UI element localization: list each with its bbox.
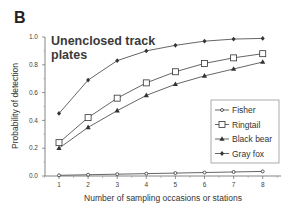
x-ticks: 12345678 (44, 176, 277, 188)
legend-marker (219, 122, 225, 128)
data-point-gray-fox (203, 39, 207, 44)
data-point-fisher (145, 172, 148, 175)
data-point-gray-fox (115, 58, 119, 63)
data-point-gray-fox (173, 43, 177, 48)
x-axis-label: Number of sampling occasions or stations (84, 193, 242, 203)
data-point-ringtail (143, 80, 149, 86)
chart: B 0.00.20.40.60.81.0 12345678 Unenclosed… (0, 0, 298, 215)
data-point-ringtail (172, 69, 178, 75)
data-point-fisher (116, 173, 119, 176)
data-point-fisher (232, 170, 235, 173)
y-tick-label: 1.0 (29, 33, 38, 40)
x-tick-label: 5 (174, 181, 178, 188)
data-point-fisher (203, 171, 206, 174)
legend-marker (221, 109, 224, 112)
x-tick-label: 7 (232, 181, 236, 188)
data-point-ringtail (114, 95, 120, 101)
x-tick-label: 3 (115, 181, 119, 188)
legend: FisherRingtailBlack bearGray fox (211, 100, 279, 163)
chart-title-line-2: plates (51, 48, 87, 62)
data-point-gray-fox (144, 49, 148, 54)
y-tick-label: 0.0 (29, 172, 38, 179)
y-tick-label: 0.6 (29, 89, 38, 96)
data-point-ringtail (56, 140, 62, 146)
legend-label: Fisher (232, 105, 256, 115)
x-tick-label: 1 (57, 181, 61, 188)
data-point-gray-fox (232, 37, 236, 42)
data-point-black-bear (260, 59, 265, 64)
data-point-black-bear (56, 145, 61, 150)
panel-letter: B (14, 9, 26, 26)
data-point-ringtail (85, 115, 91, 121)
chart-title-line-1: Unenclosed track (51, 34, 155, 48)
y-tick-label: 0.2 (29, 144, 38, 151)
data-point-fisher (174, 172, 177, 175)
legend-label: Ringtail (232, 120, 260, 130)
data-point-fisher (87, 173, 90, 176)
data-point-gray-fox (261, 36, 265, 41)
y-tick-label: 0.8 (29, 61, 38, 68)
data-point-fisher (58, 174, 61, 177)
data-point-fisher (261, 170, 264, 173)
legend-label: Gray fox (232, 149, 265, 159)
x-tick-label: 8 (261, 181, 265, 188)
data-point-ringtail (260, 51, 266, 57)
x-tick-label: 6 (203, 181, 207, 188)
data-point-black-bear (86, 125, 91, 130)
x-tick-label: 2 (86, 181, 90, 188)
x-tick-label: 4 (144, 181, 148, 188)
data-point-ringtail (202, 60, 208, 66)
y-tick-label: 0.4 (29, 117, 38, 124)
legend-label: Black bear (232, 134, 272, 144)
y-ticks: 0.00.20.40.60.81.0 (29, 33, 45, 179)
data-point-ringtail (231, 55, 237, 61)
y-axis-label: Probability of detection (10, 63, 20, 149)
